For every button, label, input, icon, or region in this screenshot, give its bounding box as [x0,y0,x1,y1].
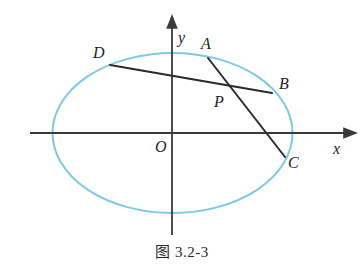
origin-label: O [155,139,167,155]
chord-db [110,65,272,93]
figure-container: A B C D P y x O 图 3.2-3 [0,0,364,270]
point-label-c: C [288,155,299,171]
point-label-d: D [93,45,105,61]
x-axis-label: x [333,141,340,157]
point-label-a: A [201,36,211,52]
point-label-p: P [214,94,224,110]
figure-caption: 图 3.2-3 [0,240,364,261]
point-label-b: B [279,76,289,92]
y-axis-label: y [178,30,185,46]
